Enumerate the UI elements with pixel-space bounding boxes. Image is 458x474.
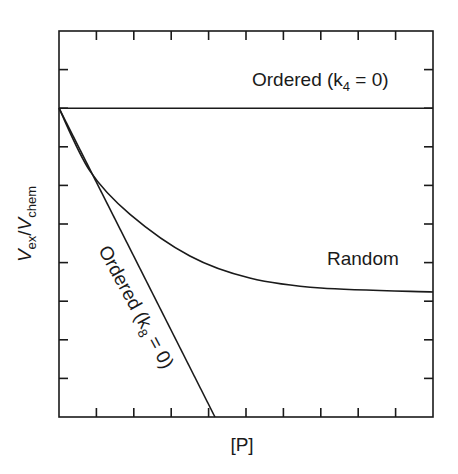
x-axis-label: [P] [230, 434, 253, 455]
label-ordered-k4: Ordered (k4 = 0) [252, 69, 389, 94]
label-random: Random [327, 248, 399, 269]
y-axis-label: Vex/Vchem [14, 186, 39, 262]
series-ordered-k8-line [59, 108, 215, 417]
label-ordered-k8: Ordered (k8 = 0) [91, 242, 178, 374]
chart: Ordered (k4 = 0) Random Ordered (k8 = 0)… [0, 0, 458, 474]
